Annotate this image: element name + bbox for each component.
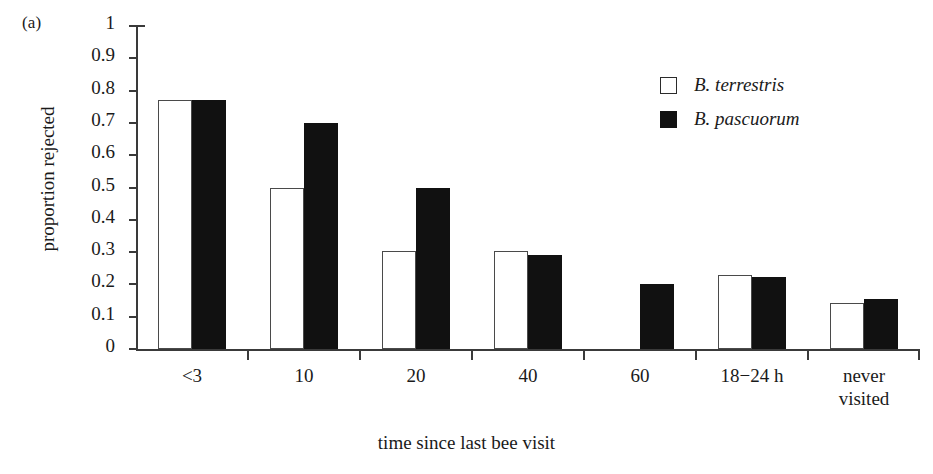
bar [830,303,864,350]
x-axis-tick [807,349,809,360]
y-axis-tick-label: 0.4 [55,207,115,227]
bar-chart-figure: (a) proportion rejected 00.10.20.30.40.5… [0,0,933,474]
y-axis-tick: 1 [129,25,145,27]
bar [416,188,450,350]
y-axis-tick: 0.2 [129,283,138,285]
panel-label: (a) [22,14,41,31]
y-axis-tick-label: 0.7 [55,110,115,130]
y-axis-tick: 0.9 [129,57,138,59]
bar [718,275,752,349]
x-axis-tick [359,349,361,360]
x-axis-tick [583,349,585,360]
x-axis-tick-label: 10 [248,364,360,387]
y-axis-tick: 0.3 [129,251,138,253]
x-axis-tick [918,349,920,360]
bar [382,251,416,350]
y-axis-tick: 0.4 [129,219,138,221]
y-axis-tick: 0.1 [129,316,138,318]
bar [494,251,528,350]
bar [158,100,192,349]
legend-label: B. pascuorum [694,108,800,130]
y-axis-tick-label: 0.8 [55,78,115,98]
x-axis-line [136,349,920,351]
x-axis-tick-label: <3 [136,364,248,387]
y-axis-tick: 0.6 [129,154,138,156]
y-axis-tick-label: 0.2 [55,271,115,291]
bar [864,299,898,349]
y-axis-tick-label: 0.1 [55,304,115,324]
x-axis-tick-label: never visited [808,364,920,410]
y-axis-tick: 0.8 [129,90,138,92]
y-axis-tick-label: 0.5 [55,175,115,195]
x-axis-tick-label: 60 [584,364,696,387]
y-axis-tick-label: 1 [55,13,115,33]
bar [640,284,674,349]
filled-square-icon [660,111,677,128]
x-axis-tick [695,349,697,360]
open-square-icon [660,77,677,94]
x-axis-tick-label: 20 [360,364,472,387]
y-axis-tick-label: 0 [55,336,115,356]
bar [528,255,562,349]
bar [752,277,786,349]
y-axis-tick-label: 0.9 [55,45,115,65]
y-axis-tick-label: 0.6 [55,142,115,162]
y-axis-tick-label: 0.3 [55,239,115,259]
legend-label: B. terrestris [694,74,784,96]
x-axis-tick-label: 18−24 h [696,364,808,387]
legend-item-b-pascuorum: B. pascuorum [660,102,890,136]
legend-item-b-terrestris: B. terrestris [660,68,890,102]
x-axis-tick [471,349,473,360]
y-axis-tick: 0.5 [129,187,138,189]
y-axis-tick: 0 [129,348,138,350]
x-axis-tick-label: 40 [472,364,584,387]
bar [304,123,338,349]
legend: B. terrestris B. pascuorum [660,68,890,136]
bar [192,100,226,349]
x-axis-tick [247,349,249,360]
y-axis-tick: 0.7 [129,122,138,124]
bar [270,188,304,350]
x-axis-title: time since last bee visit [0,432,933,454]
